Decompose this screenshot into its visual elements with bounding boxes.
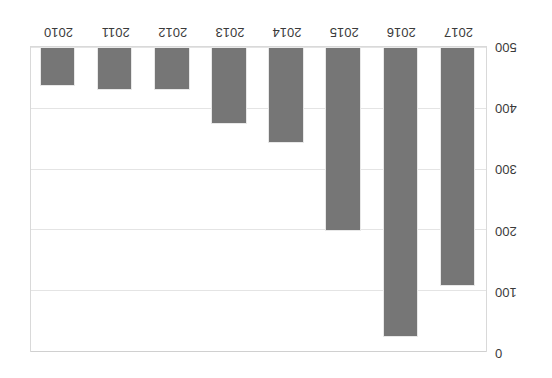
y-tick-label: 100 — [495, 285, 529, 300]
chart-figure-rotated: 0 100 200 300 400 500 2017 2016 2015 201… — [0, 0, 552, 378]
y-tick-label: 500 — [495, 40, 529, 55]
x-tick-label: 2014 — [259, 25, 316, 40]
x-tick-label: 2015 — [316, 25, 373, 40]
bar-2014 — [268, 47, 303, 143]
bar-2016 — [383, 47, 418, 337]
y-tick-label: 400 — [495, 101, 529, 116]
bar-2011 — [97, 47, 132, 90]
bar-chart: 0 100 200 300 400 500 2017 2016 2015 201… — [0, 0, 552, 378]
x-tick-label: 2011 — [87, 25, 144, 40]
x-tick-label: 2010 — [30, 25, 87, 40]
x-tick-label: 2012 — [144, 25, 201, 40]
bar-series — [31, 47, 486, 351]
x-tick-label: 2017 — [430, 25, 487, 40]
plot-area — [30, 46, 487, 352]
y-tick-label: 300 — [495, 162, 529, 177]
gridline-0 — [31, 351, 486, 352]
x-tick-label: 2016 — [373, 25, 430, 40]
bar-2012 — [154, 47, 189, 90]
bar-2017 — [440, 47, 475, 286]
bar-2010 — [40, 47, 75, 86]
bar-2015 — [326, 47, 361, 231]
y-tick-label: 0 — [495, 346, 529, 361]
y-tick-label: 200 — [495, 224, 529, 239]
x-tick-label: 2013 — [201, 25, 258, 40]
bar-2013 — [211, 47, 246, 124]
